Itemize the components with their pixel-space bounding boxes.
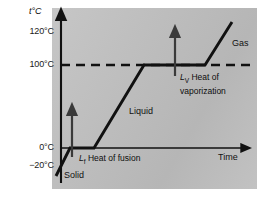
latent-heat-vaporization-subscript: V [185, 77, 189, 84]
phase-label-liquid: Liquid [129, 106, 153, 116]
phase-label-gas: Gas [232, 38, 249, 48]
y-axis-label: t°C [29, 6, 42, 16]
y-tick-label-120: 120°C [8, 26, 54, 36]
heat-of-vaporization-text-line2: vaporization [180, 86, 226, 96]
y-tick-label-100: 100°C [8, 59, 54, 69]
x-axis-label: Time [218, 152, 238, 162]
heat-of-vaporization-label: LV Heat ofvaporization [180, 72, 226, 97]
latent-heat-fusion-subscript: f [84, 158, 86, 165]
heat-of-vaporization-text-line1: Heat of [191, 72, 218, 82]
heat-of-fusion-text: Heat of fusion [88, 153, 140, 163]
y-tick-label-0: 0°C [8, 142, 54, 152]
y-tick-label-minus20: −20°C [4, 160, 54, 170]
phase-change-diagram: t°C 120°C 100°C 0°C −20°C Time Solid Liq… [0, 0, 267, 197]
phase-label-solid: Solid [64, 170, 84, 180]
heat-of-fusion-label: Lf Heat of fusion [79, 153, 140, 167]
